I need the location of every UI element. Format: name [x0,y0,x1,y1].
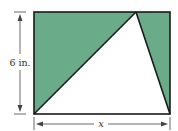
width-label: x [98,118,104,129]
arrow-up-icon [18,14,23,21]
height-label: 6 in. [9,57,30,68]
arrow-right-icon [161,122,168,127]
arrow-down-icon [18,105,23,112]
arrow-left-icon [36,122,43,127]
rectangle-triangle-diagram: 6 in. x [0,0,178,131]
